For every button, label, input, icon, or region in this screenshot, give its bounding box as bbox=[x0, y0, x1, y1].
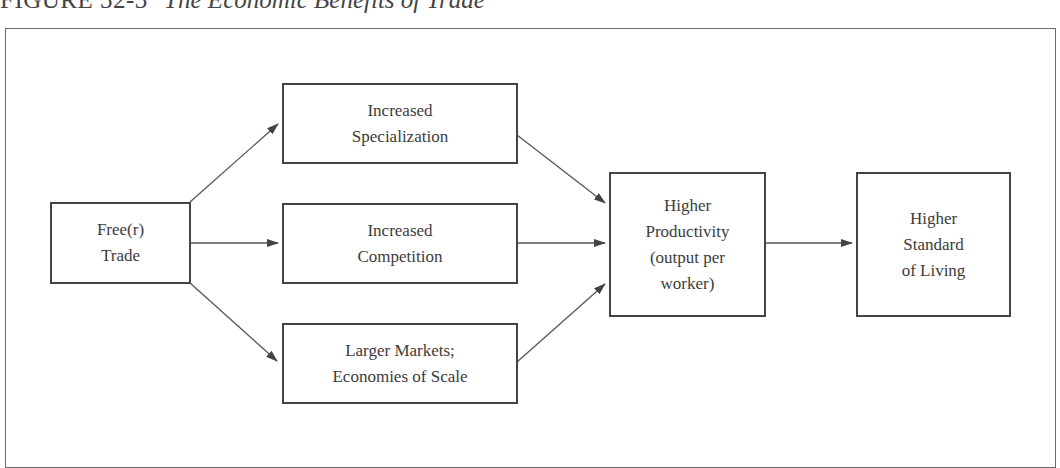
arrow-trade-to-specialization bbox=[190, 124, 278, 202]
node-label: Increased Competition bbox=[358, 218, 443, 270]
node-label: Higher Standard of Living bbox=[902, 206, 966, 284]
node-higher-standard-of-living: Higher Standard of Living bbox=[856, 172, 1011, 317]
arrow-trade-to-larger-markets bbox=[190, 283, 277, 361]
node-free-trade: Free(r) Trade bbox=[50, 202, 191, 284]
node-increased-competition: Increased Competition bbox=[282, 203, 518, 284]
node-larger-markets: Larger Markets; Economies of Scale bbox=[282, 323, 518, 404]
node-higher-productivity: Higher Productivity (output per worker) bbox=[609, 172, 766, 317]
node-label: Higher Productivity (output per worker) bbox=[645, 193, 729, 297]
node-label: Free(r) Trade bbox=[97, 217, 144, 269]
arrow-specialization-to-productivity bbox=[517, 135, 605, 203]
node-label: Increased Specialization bbox=[352, 98, 448, 150]
node-label: Larger Markets; Economies of Scale bbox=[332, 338, 467, 390]
node-increased-specialization: Increased Specialization bbox=[282, 83, 518, 164]
arrow-larger-markets-to-productivity bbox=[517, 284, 605, 362]
